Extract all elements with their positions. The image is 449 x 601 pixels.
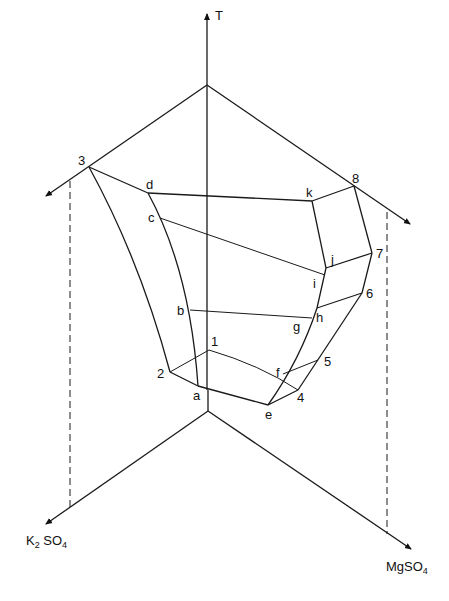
label-a: a bbox=[193, 388, 201, 403]
edge-6-4 bbox=[298, 293, 362, 390]
edge-c-i bbox=[160, 218, 325, 275]
label-2: 2 bbox=[157, 366, 164, 381]
curve-j-e bbox=[268, 268, 326, 405]
label-g: g bbox=[293, 319, 300, 334]
curve-1-4 bbox=[209, 350, 298, 390]
edge-h-6 bbox=[317, 293, 362, 308]
upper-right-edge bbox=[207, 85, 410, 224]
label-6: 6 bbox=[366, 286, 373, 301]
label-k: k bbox=[306, 185, 313, 200]
label-c: c bbox=[148, 210, 155, 225]
phase-diagram: T 3 d c b 1 2 a e 4 f 5 g h i j 6 7 k 8 … bbox=[0, 0, 449, 601]
label-4: 4 bbox=[297, 390, 304, 405]
label-h: h bbox=[316, 310, 323, 325]
edge-3-d bbox=[89, 167, 148, 193]
label-j: j bbox=[330, 252, 334, 267]
edge-k-j bbox=[312, 201, 326, 268]
t-axis-label: T bbox=[215, 8, 223, 23]
mgso4-axis bbox=[208, 411, 411, 549]
label-1: 1 bbox=[211, 334, 218, 349]
label-b: b bbox=[177, 303, 184, 318]
edge-b-h bbox=[190, 310, 312, 318]
label-e: e bbox=[265, 407, 272, 422]
label-i: i bbox=[313, 276, 316, 291]
label-d: d bbox=[146, 177, 153, 192]
label-7: 7 bbox=[376, 246, 383, 261]
curve-d-a bbox=[148, 193, 198, 386]
edge-d-k bbox=[148, 193, 312, 201]
curve-3-2 bbox=[89, 167, 170, 372]
mgso4-label: MgSO4 bbox=[386, 559, 428, 576]
upper-left-edge bbox=[46, 85, 207, 196]
label-3: 3 bbox=[78, 153, 85, 168]
edge-2-a bbox=[170, 372, 198, 386]
k2so4-label: K2 SO4 bbox=[26, 533, 67, 550]
edge-k-8 bbox=[312, 186, 354, 201]
label-5: 5 bbox=[324, 354, 331, 369]
label-f: f bbox=[276, 365, 280, 380]
edge-2-1 bbox=[170, 350, 209, 372]
label-8: 8 bbox=[352, 171, 359, 186]
